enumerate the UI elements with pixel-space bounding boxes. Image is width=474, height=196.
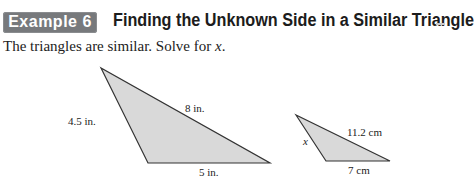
small-bottom-label: 7 cm — [348, 164, 370, 176]
large-bottom-label: 5 in. — [199, 166, 219, 178]
large-triangle: 4.5 in. 8 in. 5 in. — [68, 68, 270, 178]
small-left-label: x — [302, 135, 308, 147]
large-top-label: 8 in. — [185, 102, 205, 114]
small-triangle: x 11.2 cm 7 cm — [296, 115, 390, 176]
large-left-label: 4.5 in. — [68, 115, 96, 127]
small-top-label: 11.2 cm — [347, 126, 382, 138]
